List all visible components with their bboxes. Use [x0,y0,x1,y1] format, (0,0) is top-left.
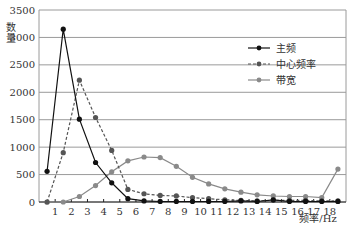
x-tick-label: 7 [149,206,155,217]
line-chart: 0500100015002000250030003500 12345678910… [0,0,350,230]
series-line [47,80,338,202]
series-lines [44,27,340,205]
data-point [222,199,227,204]
data-point [255,192,260,197]
data-point [141,198,146,203]
data-point [190,199,195,204]
data-point [93,115,98,120]
y-tick-label: 3500 [10,5,35,16]
legend-marker [257,78,262,83]
data-point [141,191,146,196]
x-axis-label: 频率/Hz [299,212,336,224]
x-tick-label: 12 [227,206,240,217]
data-point [238,198,243,203]
data-point [125,158,130,163]
data-point [319,199,324,204]
data-point [44,199,49,204]
y-tick-label: 500 [16,169,35,180]
data-point [109,169,114,174]
data-point [174,193,179,198]
data-point [287,199,292,204]
data-point [255,199,260,204]
x-tick-label: 1 [52,206,58,217]
data-point [109,148,114,153]
data-point [61,27,66,32]
legend-label: 带宽 [276,74,296,86]
x-tick-label: 8 [165,206,171,217]
data-point [93,183,98,188]
y-tick-label: 2500 [10,59,35,70]
data-point [44,169,49,174]
y-axis-label: 数量 [5,21,16,44]
data-point [303,199,308,204]
x-tick-label: 4 [100,206,106,217]
data-point [61,150,66,155]
data-point [77,78,82,83]
x-tick-label: 9 [181,206,187,217]
data-point [238,190,243,195]
y-tick-label: 1500 [10,114,35,125]
data-point [93,160,98,165]
x-tick-label: 5 [117,206,123,217]
data-point [125,187,130,192]
data-point [335,166,340,171]
data-point [206,199,211,204]
gridlines [39,10,346,202]
legend-label: 主频 [276,42,296,54]
x-tick-label: 3 [84,206,90,217]
data-point [158,155,163,160]
data-point [174,164,179,169]
data-point [125,196,130,201]
data-point [335,199,340,204]
x-tick-label: 6 [133,206,139,217]
data-point [174,199,179,204]
x-tick-label: 15 [275,206,288,217]
data-point [61,199,66,204]
legend-marker [257,62,262,67]
data-point [206,181,211,186]
x-tick-label: 11 [210,206,223,217]
data-point [109,180,114,185]
x-tick-label: 13 [243,206,256,217]
x-tick-label: 14 [259,206,272,217]
data-point [271,197,276,202]
data-point [222,186,227,191]
x-tick-label: 2 [68,206,74,217]
y-tick-label: 0 [29,197,35,208]
y-tick-label: 1000 [10,142,35,153]
data-point [190,175,195,180]
legend: 主频中心频率带宽 [248,42,316,86]
legend-label: 中心频率 [276,58,316,70]
x-tick-label: 10 [194,206,207,217]
y-tick-label: 2000 [10,87,35,98]
legend-marker [257,46,262,51]
data-point [77,117,82,122]
data-point [141,154,146,159]
data-point [158,193,163,198]
data-point [158,199,163,204]
data-point [77,194,82,199]
